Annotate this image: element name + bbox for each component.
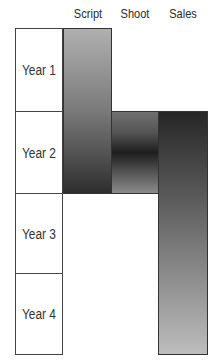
year-1-cell: Year 1 xyxy=(15,28,63,112)
script-phase-bar xyxy=(63,28,112,194)
year-3-cell: Year 3 xyxy=(15,193,63,274)
year-2-cell: Year 2 xyxy=(15,111,63,194)
year-3-label: Year 3 xyxy=(22,226,56,242)
shoot-phase-bar xyxy=(111,111,159,194)
header-sales: Sales xyxy=(162,6,205,21)
header-shoot: Shoot xyxy=(114,6,157,21)
header-script: Script xyxy=(67,6,110,21)
year-4-cell: Year 4 xyxy=(15,273,63,355)
year-4-label: Year 4 xyxy=(22,306,56,322)
year-1-label: Year 1 xyxy=(22,62,56,78)
year-2-label: Year 2 xyxy=(22,145,56,161)
sales-phase-bar xyxy=(158,111,208,355)
